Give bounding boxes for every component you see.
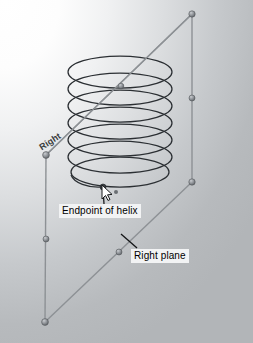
- midpoint-left-edge: [43, 236, 49, 242]
- vertex-top-left: [43, 152, 50, 159]
- right-plane-label: Right plane: [131, 249, 189, 263]
- vertex-bottom-left: [42, 319, 49, 326]
- vertex-top-right: [189, 11, 195, 17]
- right-plane-boundary[interactable]: [45, 14, 192, 322]
- midpoint-bottom-edge: [116, 249, 122, 255]
- vertex-bottom-right: [189, 179, 195, 185]
- scene-graphics: [0, 0, 253, 343]
- midpoint-right-edge: [189, 95, 195, 101]
- plane-vertices[interactable]: [42, 11, 196, 326]
- endpoint-of-helix-label: Endpoint of helix: [59, 204, 141, 218]
- helix-top-vertex[interactable]: [118, 83, 124, 89]
- helix-curve[interactable]: [68, 56, 172, 187]
- secondary-point[interactable]: [114, 190, 118, 194]
- cad-3d-viewport[interactable]: Right Endpoint of helix Right plane: [0, 0, 253, 343]
